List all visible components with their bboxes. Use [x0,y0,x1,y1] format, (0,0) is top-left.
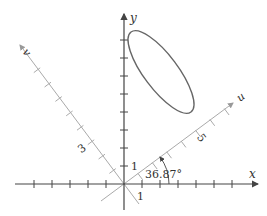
v-axis-ticks [34,68,116,174]
x-unit-label: 1 [137,190,144,203]
u-axis-label: u [234,90,247,105]
u-axis [101,103,233,201]
v-axis [20,45,139,204]
angle-label: 36.87° [145,168,182,181]
u-tick-label-5: 5 [194,131,209,144]
x-axis [15,180,258,188]
coordinate-diagram: x y u v 5 3 1 1 36.87° [0,0,267,216]
y-axis-label: y [129,11,137,25]
y-unit-label: 1 [131,160,138,173]
x-axis-label: x [249,167,256,181]
v-tick-label-3: 3 [75,141,88,156]
ellipse-curve [117,22,204,122]
